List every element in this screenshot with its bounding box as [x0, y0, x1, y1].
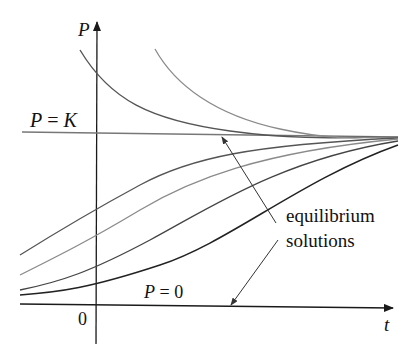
zero-line-label: P = 0 [143, 282, 183, 302]
p-axis [96, 22, 97, 344]
origin-label: 0 [78, 309, 87, 329]
t-axis-label: t [384, 314, 390, 335]
k-equilibrium-line [22, 132, 398, 137]
t-axis [20, 304, 393, 308]
p-axis-label: P [77, 19, 90, 40]
annotation-line-1: equilibrium [286, 205, 375, 226]
annotation-arrow-k [222, 137, 276, 223]
k-line-label: P = K [29, 109, 79, 131]
annotation-arrow-zero [231, 240, 278, 305]
logistic-solutions-diagram: P t 0 P = K P = 0 equilibrium solutions [0, 0, 417, 356]
annotation-line-2: solutions [286, 230, 355, 251]
solution-curve-above-1 [80, 50, 398, 138]
